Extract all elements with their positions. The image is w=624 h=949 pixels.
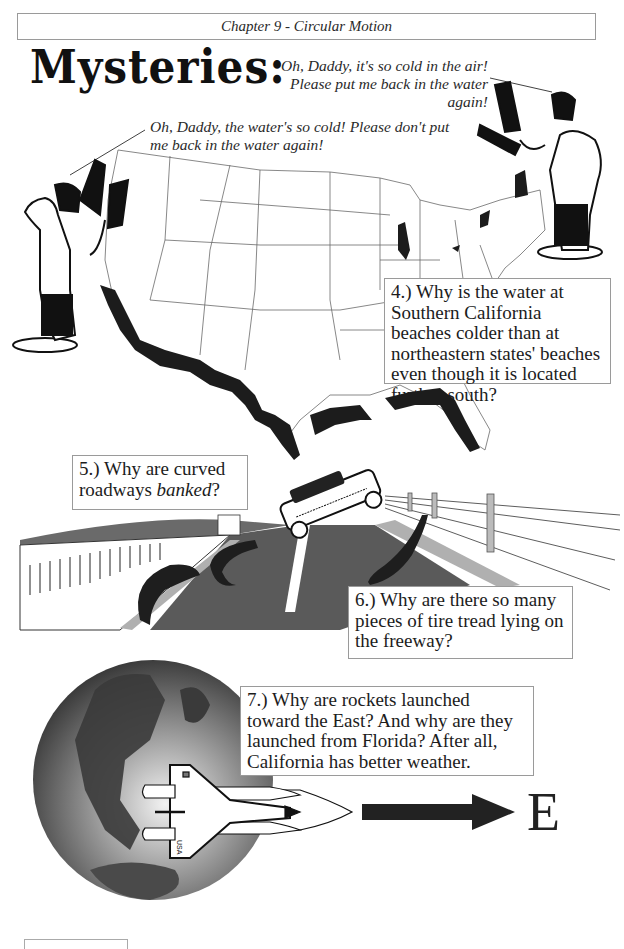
speech-bubble-right: Oh, Daddy, it's so cold in the air! Plea… [270, 57, 488, 111]
question-6-box: 6.) Why are there so many pieces of tire… [348, 586, 573, 659]
speech-bubble-left: Oh, Daddy, the water's so cold! Please d… [150, 118, 450, 154]
question-5-number: 5.) [79, 458, 100, 479]
footer-box [24, 939, 128, 949]
question-6-text: Why are there so many pieces of tire tre… [355, 589, 563, 651]
question-7-text: Why are rockets launched toward the East… [247, 689, 513, 772]
question-5-box: 5.) Why are curved roadways banked? [72, 455, 248, 510]
earth-globe-icon [33, 660, 273, 900]
question-4-box: 4.) Why is the water at Southern Califor… [384, 278, 611, 384]
question-4-number: 4.) [391, 281, 412, 302]
question-6-number: 6.) [355, 589, 376, 610]
father-holding-child-right-icon [478, 78, 602, 259]
question-7-number: 7.) [247, 689, 268, 710]
question-7-box: 7.) Why are rockets launched toward the … [240, 686, 534, 776]
shuttle-usa-label: USA [176, 840, 183, 855]
question-5-emphasis: banked [157, 479, 212, 500]
east-direction-label: E [527, 785, 560, 839]
east-arrow-icon [362, 794, 515, 830]
question-5-end: ? [211, 479, 219, 500]
